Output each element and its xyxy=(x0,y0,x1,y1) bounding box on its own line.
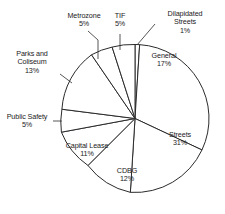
label-general: General 17% xyxy=(142,52,186,69)
label-tif-percent: 5% xyxy=(104,20,136,28)
pie-chart: Metrozone 5% TIF 5% Dilapidated Streets … xyxy=(0,0,225,214)
label-general-percent: 17% xyxy=(142,60,186,68)
label-capital-lease: Capital Lease 11% xyxy=(56,142,118,159)
label-capital-lease-percent: 11% xyxy=(56,150,118,158)
label-cdbg-percent: 12% xyxy=(107,175,147,183)
leader-line-parks-coliseum xyxy=(60,74,72,83)
label-public-safety: Public Safety 5% xyxy=(0,113,54,130)
label-cdbg: CDBG 12% xyxy=(107,167,147,184)
label-parks-and-coliseum: Parks and Coliseum 13% xyxy=(4,50,60,75)
label-tif: TIF 5% xyxy=(104,12,136,29)
label-dilapidated-streets-percent: 1% xyxy=(152,27,218,35)
label-streets: Streets 31% xyxy=(160,131,200,148)
label-dilapidated-streets: Dilapidated Streets 1% xyxy=(152,10,218,35)
label-parks-and-coliseum-percent: 13% xyxy=(4,67,60,75)
label-public-safety-percent: 5% xyxy=(0,121,54,129)
label-streets-percent: 31% xyxy=(160,139,200,147)
